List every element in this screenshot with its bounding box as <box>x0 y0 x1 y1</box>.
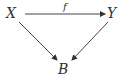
node-b: B <box>58 62 68 76</box>
arrow-x-to-b <box>19 22 57 60</box>
node-x: X <box>6 6 16 20</box>
edge-label-f: f <box>63 2 67 12</box>
node-y: Y <box>107 6 116 20</box>
arrow-y-to-b <box>72 22 108 60</box>
